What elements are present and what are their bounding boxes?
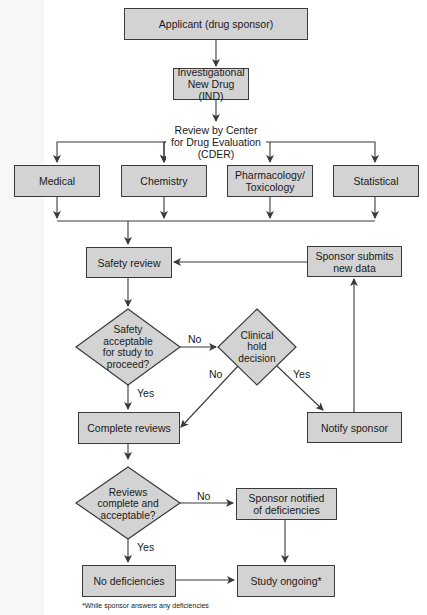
node-ind-line2: New Drug (IND) (174, 78, 248, 102)
node-medical: Medical (14, 165, 100, 197)
node-complete-reviews-label: Complete reviews (87, 422, 170, 434)
node-applicant-label: Applicant (drug sponsor) (159, 18, 273, 30)
node-sponsor-notified: Sponsor notified of deficiencies (236, 488, 337, 520)
node-no-deficiencies: No deficiencies (82, 565, 176, 597)
node-pharm-line1: Pharmacology/ (235, 169, 305, 181)
edge-label-reviews-no: No (197, 490, 210, 502)
node-study-ongoing-label: Study ongoing* (250, 575, 321, 587)
reviews-q-line2: complete and (97, 498, 158, 510)
safety-q-line2: acceptable (103, 336, 152, 348)
node-sponsor-submits-line2: new data (333, 262, 376, 274)
node-sponsor-submits: Sponsor submits new data (307, 246, 402, 277)
edge-label-reviews-yes: Yes (137, 541, 154, 553)
node-pharmacology-toxicology: Pharmacology/ Toxicology (227, 165, 313, 197)
node-notify-sponsor: Notify sponsor (307, 412, 402, 443)
node-safety-review: Safety review (86, 247, 172, 278)
reviews-q-line1: Reviews (109, 487, 148, 499)
cder-line3: (CDER) (166, 148, 266, 160)
node-sponsor-notified-line2: of deficiencies (253, 504, 320, 516)
node-chemistry-label: Chemistry (140, 175, 187, 187)
node-pharm-line2: Toxicology (245, 181, 294, 193)
safety-q-line1: Safety (114, 324, 143, 336)
edge-label-safety-no: No (188, 333, 201, 345)
node-cder-review: Review by Center for Drug Evaluation (CD… (166, 124, 266, 160)
node-ind-line1: Investigational (177, 66, 244, 78)
hold-line2: hold (247, 341, 266, 353)
cder-line2: for Drug Evaluation (166, 136, 266, 148)
safety-q-line4: proceed? (107, 359, 149, 371)
node-chemistry: Chemistry (121, 165, 207, 197)
reviews-q-line3: acceptable? (101, 510, 156, 522)
node-sponsor-notified-line1: Sponsor notified (249, 492, 325, 504)
hold-line3: decision (238, 353, 275, 365)
node-sponsor-submits-line1: Sponsor submits (315, 250, 393, 262)
node-notify-sponsor-label: Notify sponsor (321, 422, 388, 434)
node-safety-review-label: Safety review (97, 257, 160, 269)
node-medical-label: Medical (39, 175, 75, 187)
node-statistical: Statistical (333, 165, 419, 197)
cder-line1: Review by Center (166, 124, 266, 136)
node-statistical-label: Statistical (354, 175, 399, 187)
edge-label-hold-no: No (209, 368, 222, 380)
hold-line1: Clinical (241, 330, 274, 342)
node-applicant: Applicant (drug sponsor) (124, 8, 308, 40)
node-no-deficiencies-label: No deficiencies (93, 575, 164, 587)
decision-reviews-text: Reviews complete and acceptable? (88, 484, 168, 524)
edge-label-safety-yes: Yes (137, 387, 154, 399)
decision-hold-text: Clinical hold decision (227, 325, 287, 369)
safety-q-line3: for study to (103, 347, 153, 359)
decision-safety-text: Safety acceptable for study to proceed? (88, 320, 168, 374)
node-complete-reviews: Complete reviews (78, 412, 180, 444)
edge-label-hold-yes: Yes (293, 368, 310, 380)
node-ind: Investigational New Drug (IND) (173, 68, 249, 100)
footnote: *While sponsor answers any deficiencies (82, 602, 209, 609)
node-study-ongoing: Study ongoing* (237, 565, 335, 597)
